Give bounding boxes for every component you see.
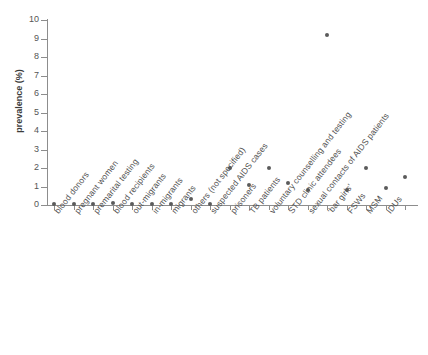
y-axis-tick — [41, 187, 47, 188]
y-axis-title: prevalence (%) — [14, 46, 24, 156]
y-axis-tick — [41, 113, 47, 114]
data-point — [403, 175, 407, 179]
y-axis-tick-label: 2 — [5, 163, 39, 172]
y-axis-tick — [41, 39, 47, 40]
y-axis-line — [47, 19, 48, 206]
data-point — [384, 186, 388, 190]
y-axis-tick — [41, 57, 47, 58]
data-point — [364, 166, 368, 170]
chart-figure: 012345678910 prevalence (%) blood donors… — [0, 0, 428, 355]
y-axis-tick-label: 0 — [5, 200, 39, 209]
y-axis-tick — [41, 20, 47, 21]
y-axis-tick-label: 1 — [5, 182, 39, 191]
y-axis-tick — [41, 150, 47, 151]
data-point — [267, 166, 271, 170]
y-axis-tick-label: 10 — [5, 15, 39, 24]
y-axis-tick — [41, 168, 47, 169]
y-axis-tick-label: 9 — [5, 34, 39, 43]
data-point — [325, 33, 329, 37]
y-axis-tick — [41, 94, 47, 95]
y-axis-tick — [41, 205, 47, 206]
x-axis-tick — [405, 205, 406, 210]
y-axis-tick — [41, 76, 47, 77]
y-axis-tick — [41, 131, 47, 132]
